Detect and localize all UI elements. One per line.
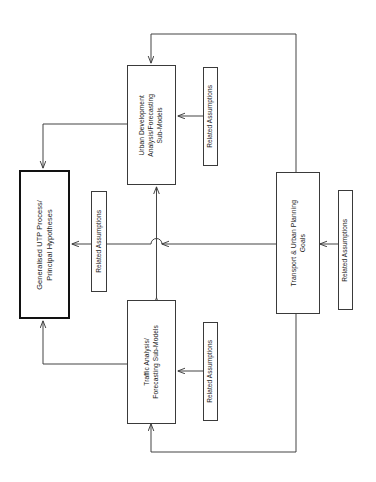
node-urban-development-line2: Analysis/Forecasting — [147, 94, 154, 157]
node-urban-development-label: Urban Development Analysis/Forecasting S… — [138, 94, 165, 157]
assumption-traffic-analysis-label: Related Assumptions — [206, 340, 215, 403]
node-transport-goals-line2: Goals — [299, 234, 306, 252]
node-assumption-urban-development[interactable]: Related Assumptions — [203, 67, 218, 166]
node-transport-goals-label: Transport & Urban Planning Goals — [289, 200, 307, 287]
node-utp-process-line2: Principal Hypotheses — [45, 209, 54, 280]
node-assumption-transport-goals[interactable]: Related Assumptions — [338, 190, 353, 310]
connector-traffic-to-utp — [43, 321, 127, 364]
node-traffic-analysis-label: Traffic Analysis/ Forecasting Sub-Models — [143, 325, 161, 399]
node-utp-process-label: Generalised UTP Process/ Principal Hypot… — [35, 200, 55, 290]
node-assumption-utp-process[interactable]: Related Assumptions — [91, 191, 107, 292]
diagram-canvas: Generalised UTP Process/ Principal Hypot… — [0, 0, 376, 482]
connector-goals-to-utp-hop — [151, 239, 162, 245]
assumption-transport-goals-label: Related Assumptions — [341, 219, 350, 282]
connector-urban-dev-to-utp — [43, 124, 127, 168]
node-traffic-analysis-line1: Traffic Analysis/ — [143, 338, 150, 386]
assumption-urban-development-label: Related Assumptions — [206, 85, 215, 148]
assumption-utp-process-label: Related Assumptions — [95, 210, 104, 273]
node-transport-goals[interactable]: Transport & Urban Planning Goals — [276, 172, 320, 314]
node-traffic-analysis-line2: Forecasting Sub-Models — [152, 325, 159, 399]
node-traffic-analysis[interactable]: Traffic Analysis/ Forecasting Sub-Models — [127, 300, 176, 424]
node-assumption-traffic-analysis[interactable]: Related Assumptions — [203, 322, 218, 421]
node-urban-development-line3: Sub-Models — [156, 107, 163, 143]
node-urban-development-line1: Urban Development — [138, 95, 145, 155]
node-transport-goals-line1: Transport & Urban Planning — [290, 200, 297, 287]
node-utp-process-line1: Generalised UTP Process/ — [35, 200, 44, 290]
node-urban-development[interactable]: Urban Development Analysis/Forecasting S… — [127, 65, 176, 185]
node-utp-process[interactable]: Generalised UTP Process/ Principal Hypot… — [19, 170, 70, 319]
